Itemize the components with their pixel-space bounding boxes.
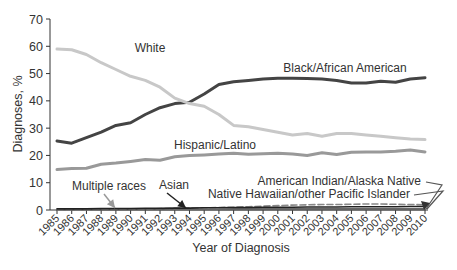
y-tick-label: 20 (29, 149, 43, 163)
series-label: White (135, 41, 166, 55)
x-axis-title: Year of Diagnosis (192, 241, 290, 255)
y-tick-label: 10 (29, 176, 43, 190)
series-line-hispanic-latino (57, 150, 425, 170)
series-label: Hispanic/Latino (174, 138, 256, 152)
series-label: Multiple races (72, 179, 146, 193)
y-tick-label: 60 (29, 40, 43, 54)
series-label: Native Hawaiian/other Pacific Islander (208, 187, 410, 201)
y-tick-label: 30 (29, 122, 43, 136)
chart-svg: 0102030405060701985198619871988198919901… (0, 0, 457, 270)
y-axis-title: Diagnoses, % (11, 75, 25, 152)
y-tick-label: 70 (29, 13, 43, 27)
series-label: American Indian/Alaska Native (258, 174, 422, 188)
line-chart: 0102030405060701985198619871988198919901… (0, 0, 457, 270)
y-tick-label: 0 (36, 204, 43, 218)
y-tick-label: 50 (29, 67, 43, 81)
arrowhead-icon (107, 199, 115, 208)
series-labels: WhiteBlack/African AmericanHispanic/Lati… (72, 41, 421, 201)
series-label: Asian (159, 178, 189, 192)
arrowhead-icon (177, 200, 186, 208)
series-label: Black/African American (283, 61, 406, 75)
y-tick-label: 40 (29, 94, 43, 108)
series-line-black-african-american (57, 78, 425, 144)
